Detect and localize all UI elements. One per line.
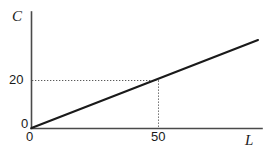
line-chart: C L 20 0 0 50 [0, 0, 273, 156]
plot-area [0, 0, 273, 156]
y-axis-label: C [12, 9, 22, 24]
y-tick-label-20: 20 [9, 73, 23, 86]
x-axis-label: L [245, 133, 253, 148]
x-tick-label-50: 50 [151, 130, 165, 143]
x-tick-label-0: 0 [26, 130, 33, 143]
data-series-line [32, 40, 259, 128]
